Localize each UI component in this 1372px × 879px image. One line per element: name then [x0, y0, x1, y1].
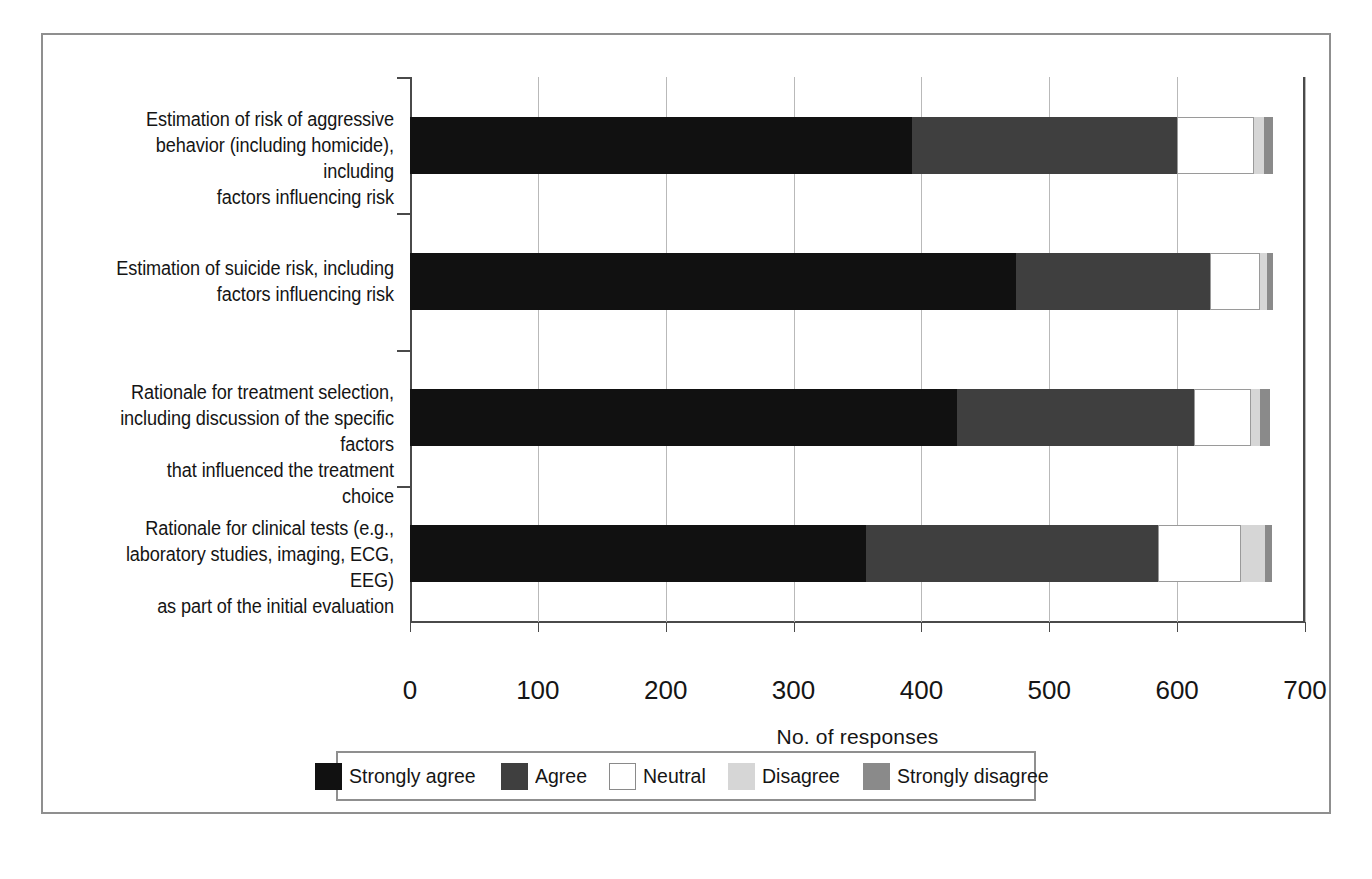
x-tick-mark — [538, 622, 539, 632]
bar-segment-strongly-disagree[interactable] — [1265, 525, 1271, 582]
x-tick-mark — [1305, 622, 1306, 632]
legend-item-neutral[interactable]: Neutral — [609, 763, 709, 790]
legend-label: Disagree — [762, 766, 840, 787]
x-tick-mark — [666, 622, 667, 632]
y-tick-mark — [397, 350, 410, 352]
legend-item-strongly-agree[interactable]: Strongly agree — [315, 763, 482, 790]
gridline — [1305, 77, 1306, 622]
x-tick-label: 100 — [516, 677, 559, 703]
x-tick-mark — [794, 622, 795, 632]
category-label-line: Estimation of suicide risk, including — [115, 255, 394, 281]
chart-figure-frame: Estimation of risk of aggressivebehavior… — [41, 33, 1331, 814]
legend-swatch — [728, 763, 755, 790]
bar-segment-strongly-agree[interactable] — [410, 525, 866, 582]
stacked-bar[interactable] — [410, 117, 1305, 174]
legend-swatch — [501, 763, 528, 790]
category-label-line: behavior (including homicide), including — [115, 132, 394, 184]
category-label-line: including discussion of the specific fac… — [115, 405, 394, 457]
y-axis-category-label: Estimation of suicide risk, includingfac… — [115, 255, 394, 307]
bar-segment-strongly-agree[interactable] — [410, 253, 1016, 310]
y-tick-mark — [397, 486, 410, 488]
y-tick-mark — [397, 213, 410, 215]
x-tick-label: 0 — [403, 677, 417, 703]
bar-segment-strongly-agree[interactable] — [410, 117, 912, 174]
legend-swatch — [863, 763, 890, 790]
plot-area: 0100200300400500600700 — [410, 77, 1305, 622]
legend-item-agree[interactable]: Agree — [501, 763, 590, 790]
chart-legend: Strongly agreeAgreeNeutralDisagreeStrong… — [336, 751, 1036, 801]
legend-item-strongly-disagree[interactable]: Strongly disagree — [863, 763, 1057, 790]
bar-segment-neutral[interactable] — [1194, 389, 1252, 446]
stacked-bar[interactable] — [410, 389, 1305, 446]
bar-segment-neutral[interactable] — [1210, 253, 1260, 310]
bar-segment-agree[interactable] — [866, 525, 1158, 582]
x-tick-label: 700 — [1283, 677, 1326, 703]
bar-segment-agree[interactable] — [912, 117, 1177, 174]
bar-segment-disagree[interactable] — [1254, 117, 1264, 174]
legend-item-disagree[interactable]: Disagree — [728, 763, 844, 790]
x-tick-label: 500 — [1028, 677, 1071, 703]
bar-segment-strongly-agree[interactable] — [410, 389, 957, 446]
x-tick-mark — [410, 622, 411, 632]
y-axis-category-label: Rationale for treatment selection,includ… — [115, 379, 394, 509]
category-label-line: Rationale for clinical tests (e.g., — [115, 515, 394, 541]
category-label-line: Rationale for treatment selection, — [115, 379, 394, 405]
category-label-line: as part of the initial evaluation — [115, 593, 394, 619]
category-label-line: factors influencing risk — [115, 184, 394, 210]
x-axis-line — [410, 621, 1305, 623]
bar-segment-neutral[interactable] — [1177, 117, 1254, 174]
legend-swatch — [609, 763, 636, 790]
y-tick-mark — [397, 77, 410, 79]
category-label-line: that influenced the treatment choice — [115, 457, 394, 509]
legend-label: Strongly agree — [349, 766, 476, 787]
bar-segment-disagree[interactable] — [1241, 525, 1265, 582]
stacked-bar[interactable] — [410, 253, 1305, 310]
category-label-line: factors influencing risk — [115, 281, 394, 307]
legend-label: Neutral — [643, 766, 706, 787]
bar-segment-agree[interactable] — [1016, 253, 1210, 310]
legend-swatch — [315, 763, 342, 790]
category-label-line: laboratory studies, imaging, ECG, EEG) — [115, 541, 394, 593]
x-tick-label: 600 — [1155, 677, 1198, 703]
y-axis-category-label: Rationale for clinical tests (e.g.,labor… — [115, 515, 394, 619]
x-axis-title: No. of responses — [410, 725, 1305, 749]
x-tick-mark — [921, 622, 922, 632]
x-tick-mark — [1177, 622, 1178, 632]
bar-segment-disagree[interactable] — [1251, 389, 1260, 446]
x-tick-label: 400 — [900, 677, 943, 703]
x-tick-mark — [1049, 622, 1050, 632]
bar-segment-strongly-disagree[interactable] — [1264, 117, 1273, 174]
bar-segment-agree[interactable] — [957, 389, 1194, 446]
y-axis-category-label: Estimation of risk of aggressivebehavior… — [115, 106, 394, 210]
legend-label: Agree — [535, 766, 587, 787]
x-tick-label: 300 — [772, 677, 815, 703]
bar-segment-strongly-disagree[interactable] — [1260, 389, 1270, 446]
legend-label: Strongly disagree — [897, 766, 1049, 787]
bar-segment-neutral[interactable] — [1158, 525, 1241, 582]
bar-segment-strongly-disagree[interactable] — [1267, 253, 1273, 310]
stacked-bar[interactable] — [410, 525, 1305, 582]
x-tick-label: 200 — [644, 677, 687, 703]
category-label-line: Estimation of risk of aggressive — [115, 106, 394, 132]
